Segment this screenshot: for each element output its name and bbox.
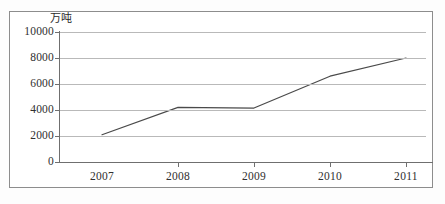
y-axis-tick-label: 10000 (6, 26, 54, 38)
y-axis-tick-mark (55, 58, 60, 59)
x-axis-tick-label: 2007 (72, 170, 132, 182)
x-axis-tick-label: 2009 (224, 170, 284, 182)
plot-area (60, 32, 426, 162)
y-axis-tick-label: 4000 (6, 104, 54, 116)
data-series-line (60, 32, 426, 162)
y-axis-tick-mark (55, 32, 60, 33)
x-axis-tick-label: 2011 (376, 170, 436, 182)
x-axis-tick-mark (178, 163, 179, 167)
grid-line (60, 110, 426, 111)
y-axis-tick-mark (55, 84, 60, 85)
x-axis-tick-mark (254, 163, 255, 167)
x-axis-tick-mark (406, 163, 407, 167)
grid-line (60, 84, 426, 85)
grid-line (60, 58, 426, 59)
grid-line (60, 136, 426, 137)
y-axis-tick-label: 6000 (6, 78, 54, 90)
grid-line (60, 32, 426, 33)
y-axis-tick-mark (55, 162, 60, 163)
x-axis-line (59, 162, 433, 163)
x-axis-tick-mark (330, 163, 331, 167)
y-axis-tick-mark (55, 110, 60, 111)
chart-screenshot: 万吨 0200040006000800010000 20072008200920… (0, 0, 445, 204)
y-axis-labels: 0200040006000800010000 (0, 0, 54, 204)
y-axis-tick-label: 0 (6, 156, 54, 168)
y-axis-tick-label: 8000 (6, 52, 54, 64)
y-axis-tick-mark (55, 136, 60, 137)
y-axis-tick-label: 2000 (6, 130, 54, 142)
x-axis-tick-label: 2008 (148, 170, 208, 182)
x-axis-tick-label: 2010 (300, 170, 360, 182)
